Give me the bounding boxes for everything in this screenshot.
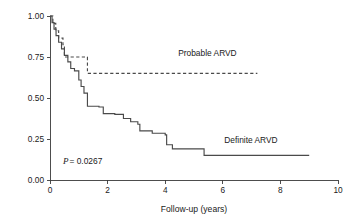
x-tick-label: 2 [105, 185, 110, 195]
p-value-symbol: P [62, 156, 69, 166]
km-survival-figure: 0.000.250.500.751.00 0246810 Definite AR… [0, 0, 354, 220]
x-axis-title: Follow-up (years) [161, 204, 228, 214]
x-tick-label: 6 [220, 185, 225, 195]
y-tick-label: 0.25 [28, 134, 45, 144]
series-label: Definite ARVD [224, 135, 277, 145]
y-tick-label: 0.50 [28, 93, 45, 103]
p-value-text: = 0.0267 [69, 156, 102, 166]
y-tick-label: 0.75 [28, 52, 45, 62]
km-plot-canvas: 0.000.250.500.751.00 0246810 Definite AR… [0, 0, 354, 220]
plot-background [0, 0, 354, 220]
annotations-layer: P = 0.0267 [62, 156, 103, 166]
x-tick-label: 10 [333, 185, 343, 195]
y-tick-label: 1.00 [28, 11, 45, 21]
x-tick-label: 0 [48, 185, 53, 195]
y-tick-label: 0.00 [28, 175, 45, 185]
x-tick-label: 8 [278, 185, 283, 195]
x-tick-label: 4 [163, 185, 168, 195]
series-label: Probable ARVD [178, 48, 237, 58]
